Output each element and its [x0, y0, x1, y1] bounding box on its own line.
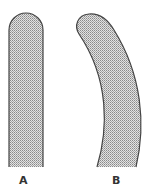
shape-a-straight-rod — [9, 13, 43, 167]
label-b: B — [112, 175, 120, 186]
shape-b-curved-rod — [77, 14, 141, 167]
diagram-canvas — [0, 0, 156, 192]
label-a: A — [19, 175, 28, 186]
